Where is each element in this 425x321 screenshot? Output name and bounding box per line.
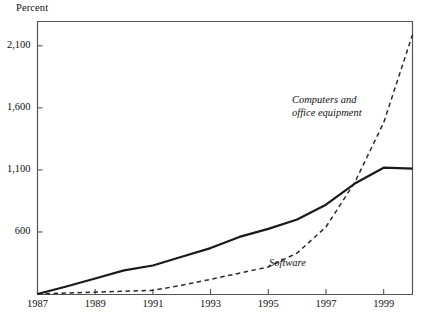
x-tick-label: 1995 (246, 298, 290, 309)
data-series-group (38, 35, 413, 294)
chart-figure: Percent 6001,1001,6002,100 1987198919911… (0, 0, 425, 321)
y-tick-label: 600 (0, 225, 31, 236)
plot-frame (37, 21, 413, 295)
x-tick-label: 1993 (189, 298, 233, 309)
x-tick-label: 1999 (362, 298, 406, 309)
series-label-computers: Computers and office equipment (292, 94, 362, 119)
y-axis-ticks (38, 46, 43, 232)
x-tick-label: 1987 (16, 298, 60, 309)
series-label-software: Software (269, 257, 306, 270)
x-tick-label: 1989 (73, 298, 117, 309)
x-tick-label: 1991 (131, 298, 175, 309)
series-line-computers-and-office-equipment (38, 35, 413, 294)
series-label-computers-line1: Computers and (292, 94, 362, 107)
x-tick-label: 1997 (304, 298, 348, 309)
y-tick-label: 2,100 (0, 39, 31, 50)
chart-canvas (0, 0, 425, 321)
series-line-software (38, 168, 413, 294)
x-axis-ticks (38, 289, 384, 294)
series-label-computers-line2: office equipment (292, 107, 362, 120)
y-tick-label: 1,100 (0, 163, 31, 174)
y-tick-label: 1,600 (0, 101, 31, 112)
